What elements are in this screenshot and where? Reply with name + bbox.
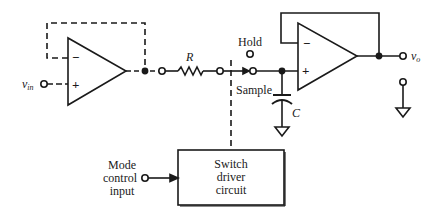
junction-dot-1 — [142, 68, 147, 73]
vin-terminal — [41, 81, 47, 87]
vo-label: vo — [411, 49, 420, 64]
sample-label: Sample — [236, 83, 272, 97]
vo-terminal — [400, 53, 406, 59]
resistor-left-terminal — [159, 68, 165, 74]
switch-driver-label-line2: driver — [217, 170, 246, 184]
opamp-1-minus-sign: − — [72, 50, 79, 65]
vo-label-subscript: o — [416, 55, 420, 64]
mode-control-label-line1: Mode — [108, 158, 136, 172]
opamp-1-triangle — [68, 38, 126, 105]
hold-label: Hold — [238, 35, 262, 49]
capacitor-ground-icon — [275, 127, 289, 136]
opamp-2-triangle — [298, 23, 357, 90]
mode-control-arrowhead — [170, 175, 178, 182]
capacitor-C — [272, 71, 292, 127]
resistor-R — [178, 67, 203, 75]
capacitor-label: C — [292, 106, 301, 120]
sample-and-hold-diagram: − + vin R Hold Sample C − + vo Mode cont… — [0, 0, 446, 216]
output-ground-terminal — [400, 79, 406, 85]
vin-label: vin — [22, 77, 34, 92]
mode-control-label-line2: control — [103, 171, 138, 185]
opamp-1-plus-sign: + — [72, 77, 79, 92]
resistor-label: R — [185, 50, 194, 64]
opamp-1 — [68, 38, 126, 105]
opamp-2-minus-sign: − — [303, 36, 310, 51]
switch-driver-label-line3: circuit — [216, 183, 247, 197]
opamp-2 — [298, 23, 357, 90]
switch-driver-label-line1: Switch — [214, 157, 247, 171]
mode-control-label-line3: input — [110, 184, 135, 198]
junction-dot-3 — [376, 53, 381, 58]
output-ground-icon — [396, 108, 410, 117]
hold-contact — [247, 51, 253, 57]
sample-contact — [250, 68, 256, 74]
circuit-svg: − + vin R Hold Sample C − + vo Mode cont… — [0, 0, 446, 216]
switch-arrowhead — [243, 68, 249, 74]
opamp-2-plus-sign: + — [302, 63, 309, 78]
vin-label-subscript: in — [27, 83, 33, 92]
resistor-right-terminal — [217, 68, 223, 74]
mode-control-terminal — [142, 175, 148, 181]
